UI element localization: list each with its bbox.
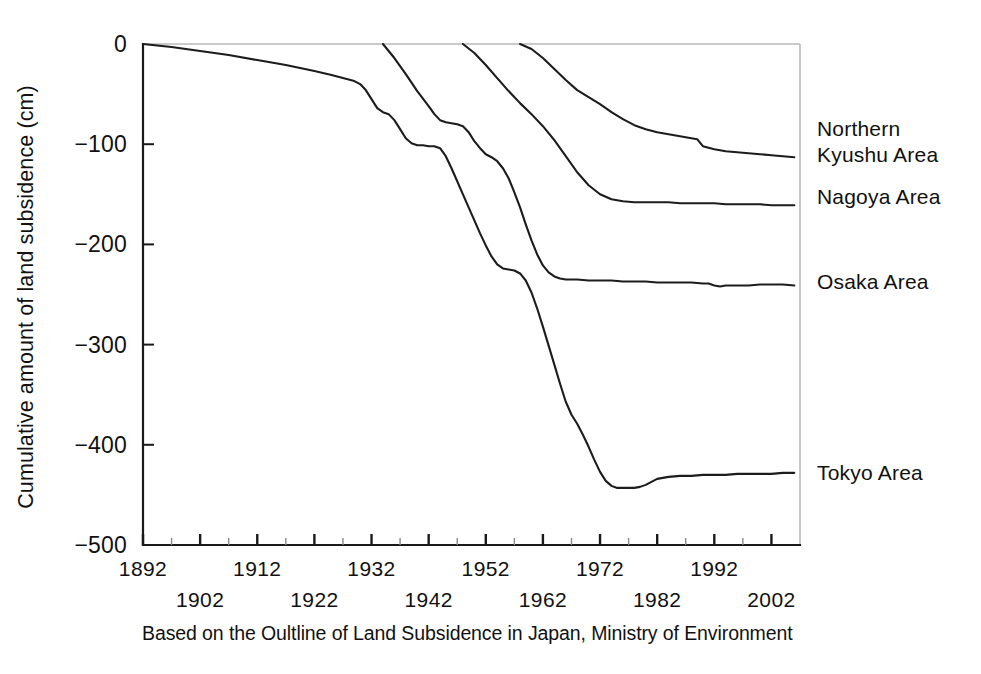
series-label-group: NorthernKyushu AreaNagoya AreaOsaka Area… bbox=[817, 117, 941, 484]
plot-frame bbox=[143, 44, 800, 545]
y-axis-tick-labels: 0−100−200−300−400−500 bbox=[74, 31, 127, 558]
x-tick-label-1902: 1902 bbox=[176, 588, 224, 611]
series-label-osaka-area: Osaka Area bbox=[817, 270, 929, 293]
chart-caption: Based on the Oultline of Land Subsidence… bbox=[142, 622, 793, 644]
y-tick-label-100: −100 bbox=[74, 131, 127, 157]
series-line-tokyo-area bbox=[143, 44, 794, 488]
x-tick-label-1972: 1972 bbox=[576, 557, 624, 580]
y-tick-label-200: −200 bbox=[74, 231, 127, 257]
y-tick-label-300: −300 bbox=[74, 332, 127, 358]
x-tick-label-2002: 2002 bbox=[747, 588, 795, 611]
series-label-tokyo-area: Tokyo Area bbox=[817, 461, 923, 484]
series-line-nagoya-area bbox=[463, 44, 794, 205]
x-tick-label-1912: 1912 bbox=[233, 557, 281, 580]
land-subsidence-line-chart: 0−100−200−300−400−500 189219021912192219… bbox=[0, 0, 981, 674]
y-axis-title: Cumulative amount of land subsidence (cm… bbox=[14, 85, 38, 509]
series-label-northern-kyushu-area-line2: Kyushu Area bbox=[817, 143, 938, 166]
y-axis-ticks bbox=[143, 144, 154, 445]
data-series-group bbox=[143, 44, 794, 488]
y-tick-label-0: 0 bbox=[114, 31, 127, 57]
x-tick-label-1942: 1942 bbox=[404, 588, 452, 611]
x-tick-label-1962: 1962 bbox=[519, 588, 567, 611]
x-tick-label-1892: 1892 bbox=[119, 557, 167, 580]
series-line-northern-kyushu-area bbox=[520, 44, 794, 157]
figure-container: 0−100−200−300−400−500 189219021912192219… bbox=[0, 0, 981, 674]
x-tick-label-1932: 1932 bbox=[347, 557, 395, 580]
x-axis-ticks bbox=[143, 534, 771, 545]
x-tick-label-1922: 1922 bbox=[290, 588, 338, 611]
x-tick-label-1992: 1992 bbox=[690, 557, 738, 580]
x-tick-label-1982: 1982 bbox=[633, 588, 681, 611]
series-label-northern-kyushu-area-line1: Northern bbox=[817, 117, 900, 140]
y-tick-label-400: −400 bbox=[74, 432, 127, 458]
x-tick-label-1952: 1952 bbox=[462, 557, 510, 580]
x-axis-tick-labels: 1892190219121922193219421952196219721982… bbox=[119, 557, 796, 611]
series-line-osaka-area bbox=[383, 44, 794, 286]
y-tick-label-500: −500 bbox=[74, 532, 127, 558]
series-label-nagoya-area: Nagoya Area bbox=[817, 185, 941, 208]
